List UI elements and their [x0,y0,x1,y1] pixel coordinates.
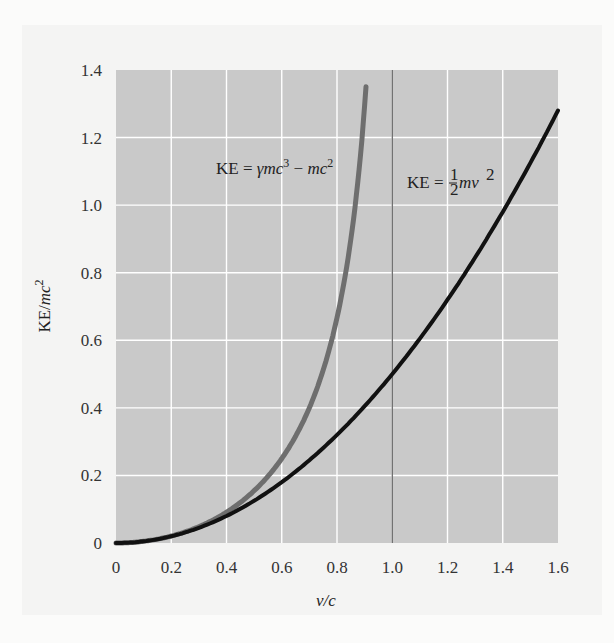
svg-text:KE/mc2: KE/mc2 [32,279,54,332]
y-axis-ticks: 00.20.40.60.81.01.21.4 [81,61,103,553]
svg-text:2: 2 [450,180,459,199]
y-tick-label: 0.8 [81,264,102,283]
x-tick-label: 0.8 [326,558,347,577]
x-tick-label: 0 [112,558,121,577]
y-axis-label: KE/mc2 [32,279,54,332]
x-tick-label: 1.0 [382,558,403,577]
x-tick-label: 0.6 [271,558,292,577]
svg-text:mv: mv [459,173,479,192]
relativistic-formula-label: KE = γmc3 − mc2 [216,156,333,178]
x-tick-label: 1.6 [547,558,568,577]
x-tick-label: 0.2 [161,558,182,577]
y-tick-label: 0.4 [81,399,103,418]
x-tick-label: 1.2 [437,558,458,577]
svg-text:KE =: KE = [407,173,444,192]
y-tick-label: 1.0 [81,196,102,215]
y-tick-label: 0.2 [81,466,102,485]
chart: 00.20.40.60.81.01.21.4 00.20.40.60.81.01… [0,0,614,643]
y-tick-label: 0 [94,534,103,553]
y-tick-label: 1.2 [81,129,102,148]
svg-text:2: 2 [486,165,495,184]
x-tick-label: 0.4 [216,558,238,577]
x-tick-label: 1.4 [492,558,514,577]
x-axis-label: v/c [316,591,336,610]
y-tick-label: 0.6 [81,331,102,350]
x-axis-ticks: 00.20.40.60.81.01.21.41.6 [112,558,569,577]
y-tick-label: 1.4 [81,61,103,80]
